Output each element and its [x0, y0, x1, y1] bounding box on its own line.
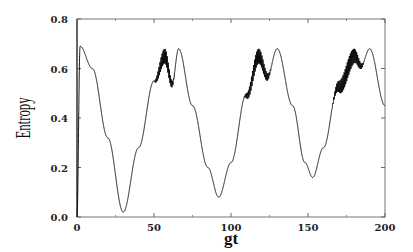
y-tick-label: 0.0 — [51, 212, 68, 223]
entropy-series — [77, 46, 385, 217]
entropy-line — [77, 46, 385, 217]
y-tick-label: 0.8 — [51, 14, 68, 25]
x-axis-title: gt — [224, 229, 239, 248]
y-tick-label: 0.6 — [51, 64, 68, 75]
x-tick-label: 200 — [375, 222, 396, 233]
x-tick-label: 50 — [147, 222, 161, 233]
y-tick-labels: 0.00.20.40.60.8 — [51, 14, 68, 223]
axis-ticks — [77, 19, 385, 217]
y-tick-label: 0.4 — [51, 113, 68, 124]
y-axis-title: Entropy — [12, 97, 35, 139]
y-tick-label: 0.2 — [51, 163, 68, 174]
x-tick-label: 0 — [74, 222, 81, 233]
plot-frame — [77, 19, 385, 217]
entropy-chart: 0.00.20.40.60.8 050100150200 gt Entropy — [0, 0, 413, 252]
x-tick-label: 150 — [298, 222, 319, 233]
